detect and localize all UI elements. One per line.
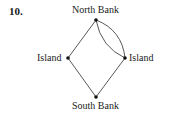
node-south xyxy=(94,95,98,99)
node-east xyxy=(123,56,127,60)
edge-west-south xyxy=(68,58,96,97)
node-west xyxy=(66,56,70,60)
label-north-bank: North Bank xyxy=(72,4,119,15)
label-east-island: Island xyxy=(129,52,153,63)
edge-east-south xyxy=(96,58,125,97)
node-north xyxy=(94,18,98,22)
edge-north-east-1 xyxy=(96,20,125,58)
edge-north-east-2 xyxy=(96,20,125,58)
label-south-bank: South Bank xyxy=(72,100,119,111)
label-west-island: Island xyxy=(37,52,61,63)
edge-north-west xyxy=(68,20,96,58)
